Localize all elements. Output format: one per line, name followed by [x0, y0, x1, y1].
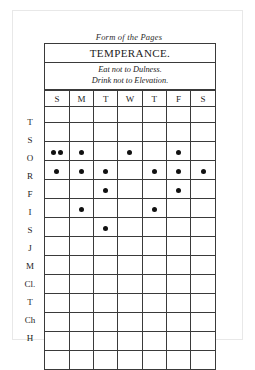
grid-cell[interactable] [142, 107, 166, 123]
grid-cell[interactable] [142, 294, 166, 313]
grid-cell[interactable] [191, 275, 215, 294]
grid-cell[interactable] [69, 313, 93, 332]
grid-cell[interactable] [94, 294, 118, 313]
grid-cell-marked[interactable] [118, 142, 142, 161]
grid-cell-marked[interactable] [45, 161, 69, 180]
grid-cell[interactable] [142, 123, 166, 142]
grid-cell[interactable] [142, 256, 166, 275]
grid-cell[interactable] [69, 294, 93, 313]
grid-cell[interactable] [142, 237, 166, 256]
grid-cell[interactable] [45, 218, 69, 237]
grid-cell[interactable] [166, 218, 190, 237]
grid-cell[interactable] [166, 275, 190, 294]
grid-cell[interactable] [45, 237, 69, 256]
grid-cell[interactable] [142, 180, 166, 199]
grid-cell[interactable] [191, 313, 215, 332]
grid-cell[interactable] [118, 218, 142, 237]
grid-cell-marked[interactable] [69, 199, 93, 218]
grid-cell[interactable] [191, 237, 215, 256]
grid-cell[interactable] [69, 332, 93, 351]
grid-cell[interactable] [45, 313, 69, 332]
grid-cell[interactable] [142, 218, 166, 237]
grid-cell[interactable] [69, 237, 93, 256]
grid-cell-marked[interactable] [94, 218, 118, 237]
grid-cell[interactable] [94, 313, 118, 332]
grid-cell-marked[interactable] [191, 161, 215, 180]
grid-cell[interactable] [45, 256, 69, 275]
grid-cell[interactable] [191, 180, 215, 199]
grid-cell[interactable] [94, 199, 118, 218]
grid-cell[interactable] [94, 256, 118, 275]
grid-cell-marked[interactable] [166, 180, 190, 199]
grid-cell[interactable] [69, 107, 93, 123]
grid-cell[interactable] [118, 237, 142, 256]
grid-cell-marked[interactable] [69, 142, 93, 161]
grid-cell[interactable] [142, 313, 166, 332]
grid-cell[interactable] [191, 199, 215, 218]
grid-cell[interactable] [166, 351, 190, 370]
grid-cell[interactable] [142, 351, 166, 370]
grid-cell[interactable] [118, 351, 142, 370]
grid-cell[interactable] [166, 256, 190, 275]
grid-cell[interactable] [191, 256, 215, 275]
grid-cell[interactable] [118, 107, 142, 123]
grid-cell[interactable] [45, 275, 69, 294]
grid-cell[interactable] [191, 123, 215, 142]
grid-cell[interactable] [45, 180, 69, 199]
grid-cell[interactable] [191, 351, 215, 370]
grid-cell[interactable] [118, 123, 142, 142]
grid-cell[interactable] [118, 332, 142, 351]
grid-cell-marked[interactable] [69, 161, 93, 180]
page-caption: Form of the Pages [40, 32, 218, 42]
grid-cell[interactable] [142, 332, 166, 351]
grid-cell[interactable] [166, 123, 190, 142]
grid-cell[interactable] [118, 275, 142, 294]
grid-cell-marked[interactable] [142, 199, 166, 218]
fault-mark-dot [176, 169, 181, 174]
grid-cell[interactable] [118, 313, 142, 332]
grid-cell[interactable] [166, 237, 190, 256]
grid-cell[interactable] [191, 142, 215, 161]
grid-cell[interactable] [69, 351, 93, 370]
grid-cell[interactable] [69, 180, 93, 199]
grid-cell[interactable] [94, 351, 118, 370]
grid-cell[interactable] [191, 107, 215, 123]
grid-cell[interactable] [69, 123, 93, 142]
grid-cell[interactable] [69, 256, 93, 275]
grid-cell[interactable] [142, 275, 166, 294]
grid-cell[interactable] [142, 142, 166, 161]
grid-cell-marked[interactable] [94, 180, 118, 199]
grid-cell[interactable] [118, 161, 142, 180]
grid-cell[interactable] [118, 294, 142, 313]
grid-cell[interactable] [191, 332, 215, 351]
grid-cell[interactable] [45, 199, 69, 218]
grid-cell-marked[interactable] [142, 161, 166, 180]
grid-cell[interactable] [118, 180, 142, 199]
grid-cell[interactable] [69, 275, 93, 294]
grid-cell[interactable] [45, 294, 69, 313]
grid-cell[interactable] [191, 294, 215, 313]
grid-cell[interactable] [94, 237, 118, 256]
grid-cell[interactable] [94, 275, 118, 294]
grid-cell-marked[interactable] [94, 161, 118, 180]
grid-cell[interactable] [166, 313, 190, 332]
grid-cell[interactable] [94, 107, 118, 123]
grid-cell[interactable] [166, 199, 190, 218]
grid-cell[interactable] [118, 256, 142, 275]
grid-cell[interactable] [45, 107, 69, 123]
grid-cell-marked[interactable] [166, 161, 190, 180]
grid-cell[interactable] [94, 123, 118, 142]
grid-cell[interactable] [45, 332, 69, 351]
grid-cell[interactable] [69, 218, 93, 237]
grid-cell[interactable] [94, 332, 118, 351]
grid-cell[interactable] [191, 218, 215, 237]
grid-cell[interactable] [166, 107, 190, 123]
grid-cell[interactable] [118, 199, 142, 218]
grid-cell-marked[interactable] [45, 142, 69, 161]
grid-cell-marked[interactable] [166, 142, 190, 161]
grid-cell[interactable] [45, 123, 69, 142]
grid-cell[interactable] [166, 294, 190, 313]
grid-cell[interactable] [94, 142, 118, 161]
grid-cell[interactable] [166, 332, 190, 351]
grid-cell[interactable] [45, 351, 69, 370]
